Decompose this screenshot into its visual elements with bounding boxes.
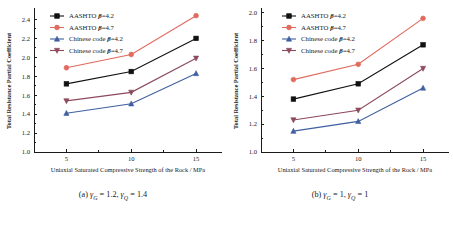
y-tick-label: 1.6 bbox=[22, 92, 31, 99]
legend-marker-triangle-up bbox=[50, 36, 64, 41]
y-tick-label: 1.8 bbox=[249, 37, 258, 44]
y-tick-label: 2.0 bbox=[249, 9, 258, 16]
data-point-circle bbox=[64, 65, 69, 70]
data-point-circle bbox=[291, 77, 296, 82]
legend-label: AASHTO β=4.7 bbox=[69, 24, 115, 31]
legend-label: AASHTO β=4.2 bbox=[301, 12, 347, 19]
plot-area-a: 1.01.21.41.61.82.02.22.451015Uniaxial Sa… bbox=[0, 0, 226, 186]
chart-b: 1.01.21.41.61.82.051015Uniaxial Saturate… bbox=[227, 0, 453, 186]
data-point-square bbox=[356, 81, 361, 86]
data-point-square bbox=[64, 82, 69, 87]
x-tick-label: 5 bbox=[65, 155, 69, 162]
legend-marker-circle bbox=[282, 25, 296, 30]
y-tick-label: 1.0 bbox=[22, 148, 31, 155]
caption-a: (a) γG = 1.2, γQ = 1.4 bbox=[0, 190, 226, 201]
data-point-circle bbox=[287, 25, 292, 30]
caption-b-prefix: (b) bbox=[312, 190, 322, 199]
y-tick-label: 1.8 bbox=[22, 73, 31, 80]
data-point-square bbox=[421, 43, 426, 48]
y-tick-label: 1.4 bbox=[249, 93, 258, 100]
legend-label: Chinese code β=4.7 bbox=[301, 47, 356, 54]
data-point-circle bbox=[421, 16, 426, 21]
data-point-circle bbox=[55, 25, 60, 30]
y-tick-label: 1.6 bbox=[249, 65, 258, 72]
y-tick-label: 1.4 bbox=[22, 110, 31, 117]
caption-b: (b) γG = 1, γQ = 1 bbox=[227, 190, 453, 201]
y-tick-label: 2.4 bbox=[22, 16, 31, 23]
data-point-square bbox=[291, 97, 296, 102]
y-tick-label: 1.0 bbox=[249, 148, 258, 155]
data-point-square bbox=[55, 14, 60, 19]
legend-marker-square bbox=[50, 14, 64, 19]
x-axis-title: Uniaxial Saturated Compressive Strength … bbox=[51, 166, 206, 173]
caption-b-gamma-q: 1 bbox=[364, 190, 368, 199]
y-tick-label: 2.0 bbox=[22, 54, 31, 61]
legend-marker-circle bbox=[50, 25, 64, 30]
legend-label: Chinese code β=4.2 bbox=[301, 35, 356, 42]
data-point-triangle-up bbox=[356, 119, 361, 124]
plot-area-b: 1.01.21.41.61.82.051015Uniaxial Saturate… bbox=[227, 0, 453, 186]
x-tick-label: 10 bbox=[355, 155, 362, 162]
caption-b-gamma-g: 1 bbox=[340, 190, 344, 199]
y-tick-label: 2.2 bbox=[22, 35, 30, 42]
y-tick-label: 1.2 bbox=[22, 129, 30, 136]
data-point-square bbox=[194, 36, 199, 41]
legend-label: AASHTO β=4.2 bbox=[69, 12, 115, 19]
legend-marker-triangle-up bbox=[282, 36, 296, 41]
legend-marker-square bbox=[282, 14, 296, 19]
x-tick-label: 15 bbox=[193, 155, 200, 162]
figure-container: 1.01.21.41.61.82.02.22.451015Uniaxial Sa… bbox=[0, 0, 453, 225]
legend-label: AASHTO β=4.7 bbox=[301, 24, 347, 31]
data-point-triangle-up bbox=[193, 71, 198, 76]
caption-a-prefix: (a) bbox=[79, 190, 88, 199]
y-axis-title: Total Resistance Partial Coefficient bbox=[5, 32, 12, 129]
panel-b: 1.01.21.41.61.82.051015Uniaxial Saturate… bbox=[227, 0, 453, 225]
legend-label: Chinese code β=4.2 bbox=[69, 35, 124, 42]
data-point-circle bbox=[194, 13, 199, 18]
chart-a: 1.01.21.41.61.82.02.22.451015Uniaxial Sa… bbox=[0, 0, 226, 186]
data-point-triangle-down bbox=[291, 118, 296, 123]
legend-label: Chinese code β=4.7 bbox=[69, 47, 124, 54]
data-point-square bbox=[287, 14, 292, 19]
panel-a: 1.01.21.41.61.82.02.22.451015Uniaxial Sa… bbox=[0, 0, 226, 225]
x-axis-title: Uniaxial Saturated Compressive Strength … bbox=[278, 166, 433, 173]
y-axis-title: Total Resistance Partial Coefficient bbox=[232, 32, 239, 129]
data-point-triangle-down bbox=[420, 66, 425, 71]
x-tick-label: 5 bbox=[292, 155, 296, 162]
data-point-triangle-down bbox=[193, 56, 198, 61]
y-tick-label: 1.2 bbox=[249, 120, 257, 127]
x-tick-label: 10 bbox=[128, 155, 135, 162]
data-point-square bbox=[129, 69, 134, 74]
caption-a-gamma-g: 1.2 bbox=[106, 190, 116, 199]
data-point-circle bbox=[356, 62, 361, 67]
x-tick-label: 15 bbox=[420, 155, 427, 162]
data-point-circle bbox=[129, 52, 134, 57]
caption-a-gamma-q: 1.4 bbox=[137, 190, 147, 199]
legend-marker-triangle-down bbox=[282, 48, 296, 53]
legend-marker-triangle-down bbox=[50, 48, 64, 53]
series-line bbox=[66, 38, 196, 83]
data-point-triangle-up bbox=[420, 85, 425, 90]
